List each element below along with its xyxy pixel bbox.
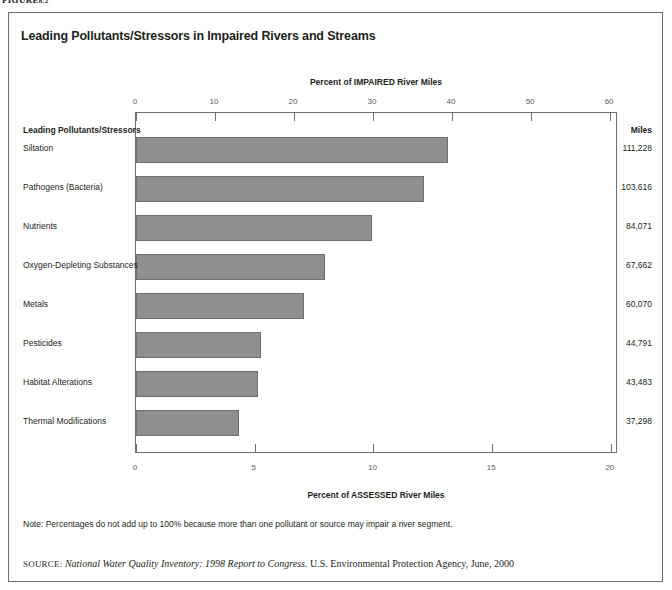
top-tick-mark [215, 113, 216, 121]
bottom-tick-label: 10 [368, 463, 377, 472]
miles-value: 44,791 [626, 338, 652, 348]
bottom-tick-label: 0 [133, 463, 137, 472]
bar [136, 215, 372, 241]
top-tick-label: 40 [447, 97, 456, 106]
bottom-tick-mark [492, 444, 493, 452]
category-label: Pesticides [23, 338, 62, 348]
figure-caption: FIGURE8.2 [2, 0, 48, 5]
figure-panel: Leading Pollutants/Stressors in Impaired… [8, 12, 663, 582]
bottom-tick-mark [136, 444, 137, 452]
bar [136, 332, 261, 358]
top-tick-label: 20 [289, 97, 298, 106]
miles-value: 67,662 [626, 260, 652, 270]
bottom-tick-mark [255, 444, 256, 452]
top-tick-label: 60 [605, 97, 614, 106]
bottom-tick-mark [373, 444, 374, 452]
top-tick-mark [531, 113, 532, 121]
top-tick-mark [373, 113, 374, 121]
top-tick-label: 50 [526, 97, 535, 106]
source-title: National Water Quality Inventory: 1998 R… [65, 558, 308, 569]
category-label: Pathogens (Bacteria) [23, 182, 103, 192]
figure-caption-label: FIGURE [2, 0, 39, 5]
miles-value: 43,483 [626, 377, 652, 387]
category-label: Oxygen-Depleting Substances [23, 260, 138, 270]
bar [136, 137, 448, 163]
figure-caption-number: 8.2 [39, 0, 49, 5]
source-label: SOURCE: [23, 559, 62, 569]
category-label: Habitat Alterations [23, 377, 92, 387]
miles-value: 111,228 [623, 143, 652, 153]
miles-value: 60,070 [626, 299, 652, 309]
miles-column-header: Miles [631, 125, 652, 135]
top-tick-label: 0 [133, 97, 137, 106]
miles-value: 103,616 [621, 182, 652, 192]
bar-chart: Percent of IMPAIRED River Miles 01020304… [9, 13, 664, 583]
miles-value: 84,071 [626, 221, 652, 231]
bottom-tick-label: 5 [251, 463, 255, 472]
plot-frame [135, 112, 617, 453]
chart-note: Note: Percentages do not add up to 100% … [23, 519, 453, 529]
bar [136, 293, 304, 319]
category-label: Thermal Modifications [23, 416, 106, 426]
category-label: Metals [23, 299, 48, 309]
top-tick-mark [610, 113, 611, 121]
bar [136, 371, 258, 397]
bottom-tick-mark [611, 444, 612, 452]
top-tick-mark [136, 113, 137, 121]
category-label: Siltation [23, 143, 53, 153]
bottom-axis-title: Percent of ASSESSED River Miles [135, 490, 617, 500]
bottom-tick-label: 20 [605, 463, 614, 472]
top-tick-mark [294, 113, 295, 121]
bottom-axis-tick-labels: 05101520 [135, 463, 617, 475]
category-label: Nutrients [23, 221, 57, 231]
top-axis-tick-labels: 0102030405060 [135, 97, 617, 109]
chart-source: SOURCE: National Water Quality Inventory… [23, 558, 514, 569]
bar [136, 410, 239, 436]
miles-value: 37,298 [626, 416, 652, 426]
top-tick-label: 30 [368, 97, 377, 106]
top-tick-mark [452, 113, 453, 121]
top-axis-title: Percent of IMPAIRED River Miles [135, 77, 617, 87]
bar [136, 176, 424, 202]
top-tick-label: 10 [210, 97, 219, 106]
bottom-tick-label: 15 [487, 463, 496, 472]
bar [136, 254, 325, 280]
category-column-header: Leading Pollutants/Stressors [23, 125, 141, 135]
source-publisher: U.S. Environmental Protection Agency, Ju… [308, 558, 515, 569]
